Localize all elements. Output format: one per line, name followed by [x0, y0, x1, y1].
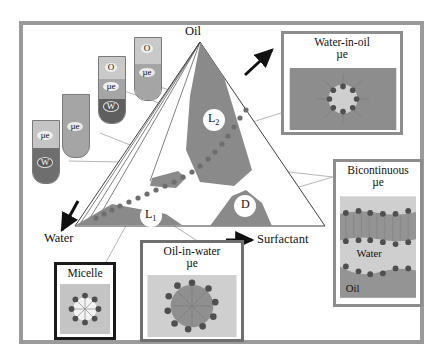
inset-oil-in-water-art: [147, 275, 237, 337]
inset-bicontinuous: Bicontinuous µe: [333, 159, 423, 307]
inset-bicontinuous-water-label: Water: [357, 247, 383, 259]
inset-oil-in-water-line2: µe: [143, 257, 241, 269]
corner-label-surfactant: Surfactant: [257, 233, 308, 246]
inset-bicontinuous-oil-label: Oil: [346, 282, 360, 294]
inset-micelle-art: [60, 284, 110, 334]
inset-oil-in-water-line1: Oil-in-water: [143, 245, 241, 257]
region-L1-sub: 1: [152, 214, 156, 223]
tube-o-ue-label-1: µe: [139, 68, 154, 77]
tube-ue-w-label-0: µe: [37, 131, 52, 140]
inset-water-in-oil-art: [289, 68, 397, 130]
corner-label-oil: Oil: [185, 25, 201, 38]
inset-water-in-oil-line2: µe: [284, 48, 400, 60]
region-label-D: D: [241, 198, 250, 211]
tube-o-ue-label-0: O: [141, 44, 154, 53]
inset-micelle-line1: Micelle: [57, 267, 113, 279]
inset-bicontinuous-line2: µe: [336, 176, 420, 188]
inset-bicontinuous-art: Water Oil: [340, 196, 416, 298]
corner-label-water: Water: [44, 232, 74, 245]
region-L2-sub: 2: [215, 118, 219, 127]
inset-oil-in-water-caption: Oil-in-water µe: [143, 243, 241, 270]
inset-water-in-oil-caption: Water-in-oil µe: [284, 34, 400, 61]
tube-o-ue-w-label-1: µe: [103, 82, 118, 91]
inset-micelle: Micelle: [54, 262, 116, 340]
inset-bicontinuous-line1: Bicontinuous: [336, 164, 420, 176]
inset-micelle-caption: Micelle: [57, 265, 113, 279]
tube-ue-label-0: µe: [67, 122, 82, 131]
tube-o-ue-w-label-2: W: [103, 101, 120, 112]
inset-oil-in-water: Oil-in-water µe: [140, 240, 244, 342]
figure-root: Oil Water Surfactant L2 L1 D µe W µe O µ…: [0, 0, 445, 364]
tube-o-ue-w-label-0: O: [105, 63, 118, 72]
oil-arrow: [245, 50, 272, 75]
tube-ue-w-label-1: W: [37, 157, 54, 168]
region-label-L2: L2: [208, 112, 219, 128]
inset-water-in-oil-line1: Water-in-oil: [284, 36, 400, 48]
inset-water-in-oil: Water-in-oil µe: [281, 31, 403, 135]
inset-bicontinuous-caption: Bicontinuous µe: [336, 162, 420, 189]
region-label-L1: L1: [145, 208, 156, 224]
